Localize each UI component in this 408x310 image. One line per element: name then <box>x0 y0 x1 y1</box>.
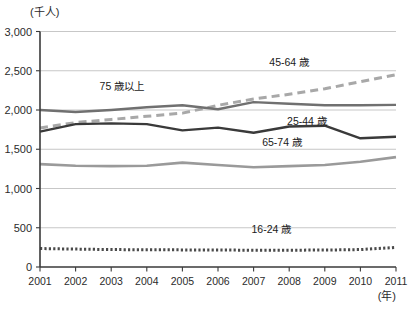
y-tick-label: 0 <box>26 261 32 273</box>
series-line <box>40 157 396 167</box>
x-tick-label: 2003 <box>100 275 124 287</box>
series-label: 25-44 歳 <box>287 115 328 127</box>
data-series <box>40 75 396 251</box>
x-tick-label: 2009 <box>313 275 337 287</box>
series-line <box>40 247 396 250</box>
x-tick-label: 2001 <box>28 275 52 287</box>
line-chart: 05001,0001,5002,0002,5003,000 2001200220… <box>0 0 408 310</box>
series-label: 45-64 歳 <box>269 56 310 68</box>
y-tick-label: 2,000 <box>4 104 32 116</box>
series-line <box>40 75 396 128</box>
y-tick-label: 500 <box>14 222 32 234</box>
series-line <box>40 102 396 112</box>
x-tick-label: 2007 <box>242 275 266 287</box>
x-tick-label: 2005 <box>171 275 195 287</box>
x-axis-tick-labels: 2001200220032004200520062007200820092010… <box>28 275 407 287</box>
y-axis-unit-label: (千人) <box>30 6 59 18</box>
gridlines <box>36 32 396 268</box>
y-axis-tick-labels: 05001,0001,5002,0002,5003,000 <box>4 26 32 274</box>
y-tick-label: 1,000 <box>4 183 32 195</box>
x-tick-label: 2002 <box>64 275 88 287</box>
y-tick-label: 3,000 <box>4 26 32 38</box>
x-axis-unit-label: (年) <box>378 289 396 302</box>
chart-page: 05001,0001,5002,0002,5003,000 2001200220… <box>0 0 408 310</box>
series-label: 65-74 歳 <box>262 136 303 148</box>
x-tick-label: 2006 <box>206 275 230 287</box>
series-label: 75 歳以上 <box>100 80 145 92</box>
x-tick-label: 2011 <box>385 275 408 287</box>
x-tick-label: 2008 <box>278 275 302 287</box>
x-tick-label: 2004 <box>135 275 159 287</box>
y-tick-label: 2,500 <box>4 65 32 77</box>
x-tick-label: 2010 <box>349 275 373 287</box>
y-tick-label: 1,500 <box>4 143 32 155</box>
series-label: 16-24 歳 <box>252 223 293 235</box>
series-line <box>40 123 396 138</box>
series-labels: 45-64 歳75 歳以上25-44 歳65-74 歳16-24 歳 <box>100 56 328 235</box>
